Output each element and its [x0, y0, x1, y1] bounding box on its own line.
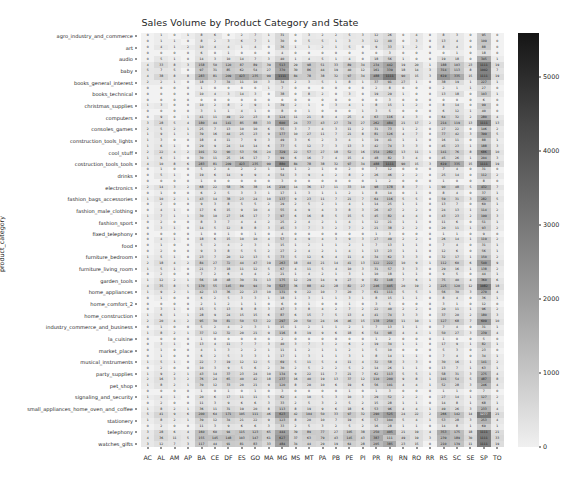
- x-tick-mark: [161, 447, 162, 449]
- y-tick-mark: [135, 199, 137, 200]
- y-tick-label: fixed_telephony: [93, 231, 133, 237]
- y-tick-mark: [135, 210, 137, 211]
- y-tick-label: computers: [106, 115, 133, 121]
- colorbar-tick-label: 1000: [543, 369, 559, 377]
- y-tick-label: cool_stuff: [109, 150, 133, 156]
- x-tick-mark: [228, 447, 229, 449]
- y-tick-mark: [135, 409, 137, 410]
- x-tick-mark: [295, 447, 296, 449]
- colorbar-tick-mark: [539, 77, 541, 78]
- y-tick-mark: [135, 269, 137, 270]
- y-tick-mark: [135, 304, 137, 305]
- x-tick-label: MA: [264, 454, 274, 461]
- x-tick-label: AM: [170, 454, 180, 461]
- x-tick-label: PR: [372, 454, 380, 461]
- y-tick-label: home_appliances: [89, 289, 133, 295]
- x-tick-mark: [497, 447, 498, 449]
- y-tick-mark: [135, 234, 137, 235]
- x-tick-labels: ACALAMAPBACEDFESGOMAMGMSMTPAPBPEPIPRRJRN…: [141, 447, 504, 469]
- colorbar-tick-label: 2000: [543, 295, 559, 303]
- x-tick-mark: [349, 447, 350, 449]
- y-tick-mark: [135, 385, 137, 386]
- y-tick-mark: [135, 245, 137, 246]
- y-tick-labels: agro_industry_and_commerceartaudiobabybo…: [0, 33, 137, 447]
- y-tick-label: furniture_living_room: [79, 266, 133, 272]
- x-tick-mark: [483, 447, 484, 449]
- x-tick-label: CE: [211, 454, 219, 461]
- colorbar-tick-mark: [539, 225, 541, 226]
- y-tick-label: construction_tools_lights: [70, 138, 133, 144]
- y-tick-mark: [135, 129, 137, 130]
- x-tick-mark: [174, 447, 175, 449]
- x-tick-mark: [282, 447, 283, 449]
- y-tick-label: telephony: [107, 429, 133, 435]
- heatmap-plot-area: 0101860271310322531226040830950011082367…: [141, 33, 504, 447]
- x-tick-mark: [335, 447, 336, 449]
- x-tick-mark: [309, 447, 310, 449]
- colorbar-tick-mark: [539, 299, 541, 300]
- y-tick-label: consoles_games: [91, 126, 133, 132]
- y-tick-mark: [135, 350, 137, 351]
- colorbar-tick-label: 5000: [543, 73, 559, 81]
- y-tick-label: party_supplies: [96, 371, 133, 377]
- x-tick-label: PI: [360, 454, 366, 461]
- x-tick-mark: [470, 447, 471, 449]
- x-tick-label: AP: [184, 454, 192, 461]
- x-tick-label: MG: [277, 454, 287, 461]
- y-tick-label: musical_instruments: [80, 359, 133, 365]
- x-tick-mark: [201, 447, 202, 449]
- colorbar-tick-label: 3000: [543, 221, 559, 229]
- x-tick-label: MT: [304, 454, 313, 461]
- x-tick-label: AL: [157, 454, 165, 461]
- colorbar-tick-mark: [539, 373, 541, 374]
- x-tick-mark: [362, 447, 363, 449]
- colorbar-tick-mark: [539, 151, 541, 152]
- y-tick-label: books_technical: [92, 91, 133, 97]
- x-tick-mark: [147, 447, 148, 449]
- x-tick-mark: [214, 447, 215, 449]
- y-tick-label: christmas_supplies: [85, 103, 133, 109]
- x-tick-label: RS: [439, 454, 447, 461]
- y-tick-label: la_cuisine: [108, 336, 133, 342]
- y-tick-mark: [135, 59, 137, 60]
- y-tick-label: industry_commerce_and_business: [46, 324, 133, 330]
- y-tick-label: books_general_interest: [74, 80, 133, 86]
- y-tick-mark: [135, 444, 137, 445]
- y-tick-mark: [135, 362, 137, 363]
- y-tick-label: pet_shop: [110, 383, 133, 389]
- colorbar-gradient: [518, 33, 539, 447]
- y-tick-label: market_place: [99, 348, 133, 354]
- x-tick-label: PA: [319, 454, 327, 461]
- x-tick-mark: [430, 447, 431, 449]
- y-tick-label: home_construction: [84, 313, 133, 319]
- y-tick-mark: [135, 280, 137, 281]
- y-tick-label: electronics: [105, 185, 133, 191]
- x-tick-mark: [255, 447, 256, 449]
- x-tick-mark: [188, 447, 189, 449]
- y-tick-label: garden_tools: [100, 278, 133, 284]
- y-tick-mark: [135, 339, 137, 340]
- y-tick-mark: [135, 140, 137, 141]
- x-tick-label: MS: [291, 454, 300, 461]
- y-tick-label: fashion_bags_accessories: [68, 196, 133, 202]
- x-tick-label: GO: [250, 454, 260, 461]
- y-tick-mark: [135, 420, 137, 421]
- y-tick-mark: [135, 222, 137, 223]
- y-tick-mark: [135, 257, 137, 258]
- x-tick-mark: [376, 447, 377, 449]
- y-tick-mark: [135, 94, 137, 95]
- colorbar-tick-mark: [539, 447, 541, 448]
- heatmap-grid: 0101860271310322531226040830950011082367…: [141, 33, 504, 447]
- y-tick-mark: [135, 175, 137, 176]
- x-tick-label: RO: [412, 454, 421, 461]
- y-tick-mark: [135, 82, 137, 83]
- x-tick-mark: [322, 447, 323, 449]
- y-tick-label: agro_industry_and_commerce: [57, 33, 133, 39]
- y-tick-label: drinks: [117, 173, 133, 179]
- y-tick-mark: [135, 70, 137, 71]
- x-tick-mark: [241, 447, 242, 449]
- y-tick-label: small_appliances_home_oven_and_coffee: [27, 406, 133, 412]
- x-tick-mark: [403, 447, 404, 449]
- x-tick-mark: [456, 447, 457, 449]
- y-tick-mark: [135, 292, 137, 293]
